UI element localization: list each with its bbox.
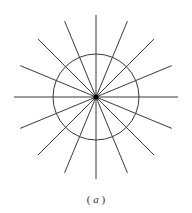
radial-lines-circle-figure: [0, 0, 192, 213]
center-point: [93, 94, 98, 99]
ray-line: [38, 39, 96, 97]
figure-caption: ( a ): [0, 193, 192, 205]
ray-line: [96, 97, 154, 155]
caption-paren-close: ): [102, 193, 106, 205]
caption-letter: a: [93, 193, 99, 205]
caption-paren-open: (: [87, 193, 91, 205]
ray-line: [96, 39, 154, 97]
ray-line: [38, 97, 96, 155]
